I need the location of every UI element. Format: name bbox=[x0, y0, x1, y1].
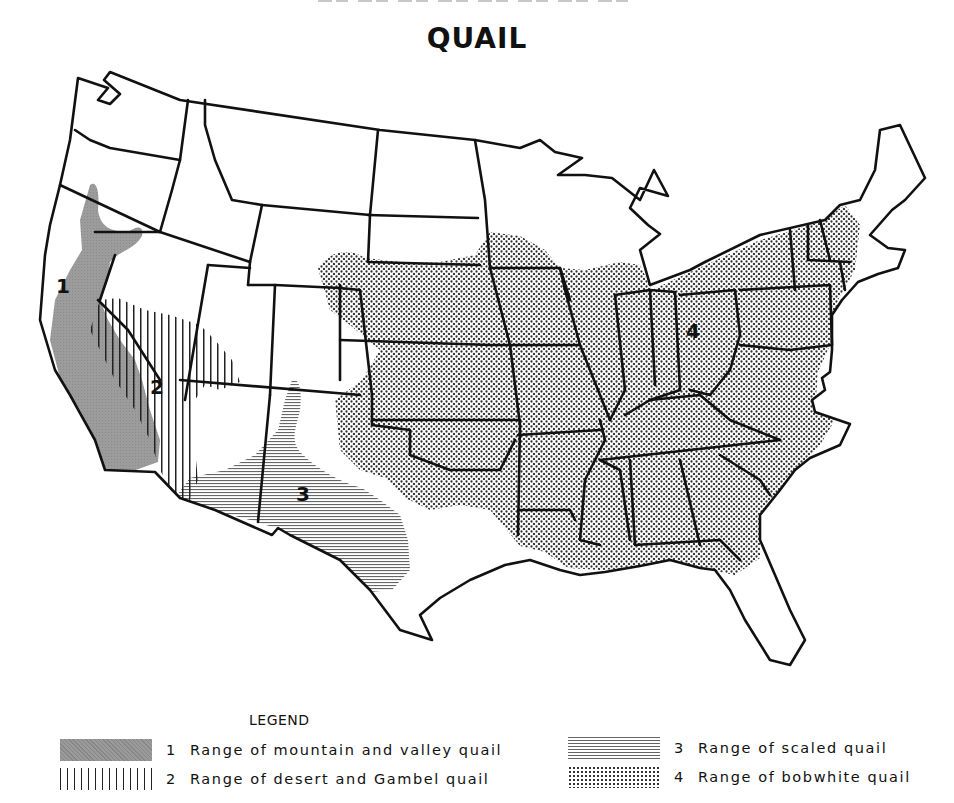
region-label-2: 2 bbox=[150, 375, 164, 399]
legend-item-2: 2 Range of desert and Gambel quail bbox=[60, 768, 489, 790]
legend-label: Range of bobwhite quail bbox=[698, 769, 911, 785]
legend-item-3: 3 Range of scaled quail bbox=[568, 737, 887, 759]
swatch-bobwhite bbox=[568, 766, 660, 788]
swatch-mountain-valley bbox=[60, 739, 152, 761]
legend-number: 1 bbox=[166, 742, 190, 758]
legend-label: Range of desert and Gambel quail bbox=[190, 771, 489, 787]
legend-number: 4 bbox=[674, 769, 698, 785]
region-label-3: 3 bbox=[296, 482, 310, 506]
legend-item-4: 4 Range of bobwhite quail bbox=[568, 766, 911, 788]
legend-label: Range of scaled quail bbox=[698, 740, 887, 756]
legend-title: LEGEND bbox=[249, 712, 310, 728]
swatch-desert-gambel bbox=[60, 768, 152, 790]
legend-item-1: 1 Range of mountain and valley quail bbox=[60, 739, 502, 761]
legend-number: 2 bbox=[166, 771, 190, 787]
region-label-4: 4 bbox=[686, 319, 700, 343]
region-label-1: 1 bbox=[56, 274, 70, 298]
swatch-scaled bbox=[568, 737, 660, 759]
us-quail-range-map: 1 2 3 4 bbox=[0, 0, 954, 700]
legend-label: Range of mountain and valley quail bbox=[190, 742, 502, 758]
legend-number: 3 bbox=[674, 740, 698, 756]
